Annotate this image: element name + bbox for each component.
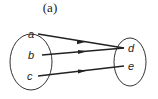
arrow-b-to-d — [42, 48, 124, 55]
element-d: d — [128, 42, 135, 54]
element-c: c — [27, 70, 33, 82]
element-b: b — [28, 49, 34, 61]
element-a: a — [28, 28, 34, 40]
mapping-diagram: a b c d e — [0, 0, 158, 99]
arrow-a-to-d — [38, 34, 124, 48]
element-e: e — [128, 60, 134, 72]
arrowhead-icon — [78, 50, 87, 54]
